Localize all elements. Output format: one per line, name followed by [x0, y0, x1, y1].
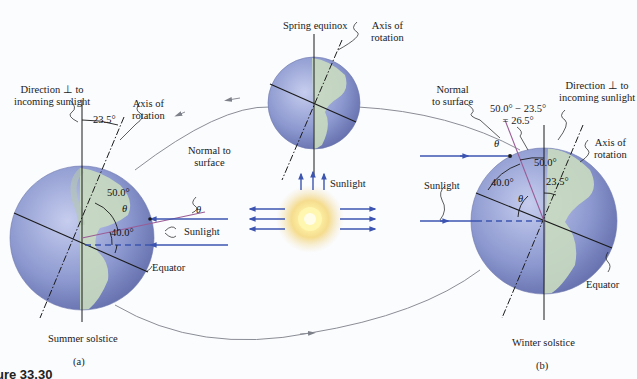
label-line: = 26.5° — [490, 115, 546, 127]
label-line: Direction ⊥ to — [14, 84, 90, 96]
earth-orbit-seasons-diagram: Direction ⊥ to incoming sunlight Axis of… — [0, 0, 637, 379]
angle-axis-tilt-b: 23.5° — [546, 176, 569, 187]
panel-tag-a: (a) — [73, 356, 85, 368]
diagram-graphics — [0, 0, 637, 379]
label-line: Normal — [432, 84, 473, 96]
label-sunlight-a: Sunlight — [184, 226, 220, 238]
angle-axis-tilt-a: 23.5° — [93, 114, 116, 125]
title-summer-solstice: Summer solstice — [48, 333, 118, 345]
label-line: incoming sunlight — [559, 92, 635, 104]
label-equator-b: Equator — [586, 279, 619, 291]
label-axis-rotation-center: Axis of rotation — [371, 20, 404, 44]
figure-caption-fragment: ure 33.30 — [0, 367, 52, 379]
label-direction-perpendicular-b: Direction ⊥ to incoming sunlight — [559, 80, 635, 104]
label-direction-perpendicular-a: Direction ⊥ to incoming sunlight — [14, 84, 90, 108]
label-normal-surface-a: Normal to surface — [188, 145, 231, 169]
angle-theta-outer-b: θ — [494, 138, 499, 149]
title-winter-solstice: Winter solstice — [512, 337, 575, 349]
label-axis-rotation-b: Axis of rotation — [594, 137, 627, 161]
label-axis-rotation-a: Axis of rotation — [132, 98, 165, 122]
label-sunlight-b: Sunlight — [424, 180, 460, 192]
angle-50-a: 50.0° — [107, 187, 130, 198]
angle-theta-inner-a: θ — [122, 203, 127, 214]
label-line: rotation — [371, 32, 404, 44]
label-line: rotation — [132, 110, 165, 122]
title-spring-equinox: Spring equinox — [283, 20, 347, 32]
label-sunlight-center: Sunlight — [330, 178, 366, 190]
label-line: Axis of — [132, 98, 165, 110]
label-line: incoming sunlight — [14, 96, 90, 108]
label-line: to surface — [432, 96, 473, 108]
label-angle-difference-b: 50.0° − 23.5° = 26.5° — [490, 103, 546, 127]
label-line: Axis of — [371, 20, 404, 32]
angle-40-a: 40.0° — [111, 227, 134, 238]
label-line: surface — [188, 157, 231, 169]
angle-theta-inner-b: θ — [518, 193, 523, 204]
earth-globe-equinox — [268, 22, 360, 180]
label-line: Normal to — [188, 145, 231, 157]
panel-tag-b: (b) — [536, 360, 548, 372]
label-line: rotation — [594, 149, 627, 161]
label-line: Axis of — [594, 137, 627, 149]
label-equator-a: Equator — [152, 262, 185, 274]
angle-theta-outer-a: θ — [196, 204, 201, 215]
label-line: 50.0° − 23.5° — [490, 103, 546, 115]
label-line: Direction ⊥ to — [559, 80, 635, 92]
angle-40-b: 40.0° — [491, 177, 514, 188]
angle-50-b: 50.0° — [534, 157, 557, 168]
label-normal-surface-b: Normal to surface — [432, 84, 473, 108]
